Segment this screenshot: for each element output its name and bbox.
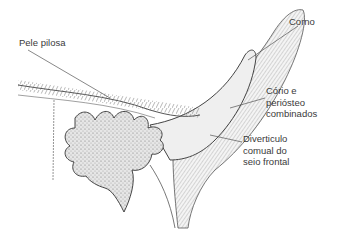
label-corio-periosteo: Cório e periósteo combinados (266, 85, 317, 120)
label-corno: Corno (289, 16, 315, 28)
frontal-sinus-shape (65, 111, 163, 212)
label-pele-pilosa: Pele pilosa (19, 37, 65, 49)
label-diverticulo: Diverticulo comual do seio frontal (243, 133, 289, 168)
